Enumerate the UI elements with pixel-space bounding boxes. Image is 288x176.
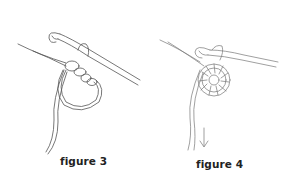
figure-3-caption: figure 3: [60, 155, 107, 167]
figure-4-caption: figure 4: [196, 158, 243, 170]
figure-4-illustration: figure 4: [144, 0, 288, 176]
figure-3-illustration: figure 3: [0, 0, 144, 176]
crochet-round-drawing-icon: [144, 0, 288, 176]
crochet-ring-drawing-icon: [0, 0, 144, 176]
